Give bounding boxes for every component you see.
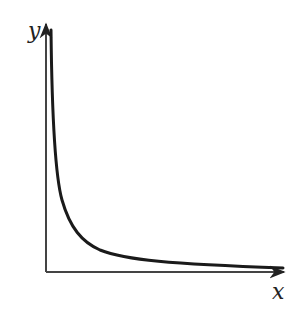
hyperbola-curve: [51, 30, 283, 268]
x-axis-label: x: [272, 279, 285, 304]
inverse-function-plot: y x: [0, 0, 291, 316]
y-axis-label: y: [27, 18, 41, 43]
